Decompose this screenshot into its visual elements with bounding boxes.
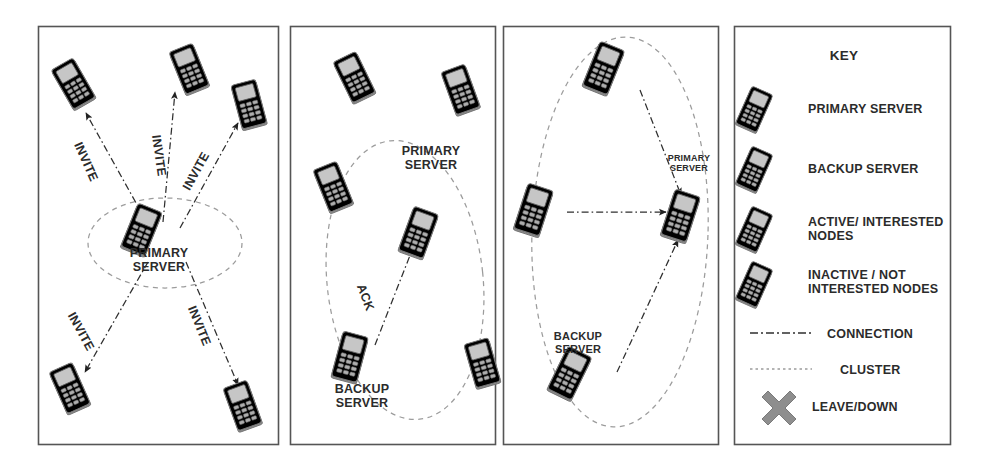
key-label-connection: CONNECTION [827,327,913,341]
cross-x-icon [762,391,796,425]
key-icons [734,86,812,425]
phone-active-icon [734,206,773,254]
key-label-cluster: CLUSTER [840,363,900,377]
panel-1-node-bottom-left [48,362,91,416]
panel-2-graphics [312,51,501,427]
panel-1-node-right [230,79,268,131]
panel-2-backup-label: BACKUP SERVER [316,382,408,411]
panel-1-node-top-center [168,43,210,96]
panel-3-node-top [581,41,625,97]
key-label-inactive-nodes: INACTIVE / NOT INTERESTED NODES [808,268,938,297]
phone-primary-icon [734,86,773,134]
panel-3-graphics [513,34,715,430]
panel-3-backup-label: BACKUP SERVER [540,330,616,355]
panel-3-primary-label: PRIMARY SERVER [653,153,725,174]
key-label-backup-server: BACKUP SERVER [808,162,919,176]
panel-2-backup-server [330,331,369,385]
panel-3-edge-top [640,90,681,195]
panel-3-node-left [513,183,555,238]
panel-2-primary-server [397,206,439,261]
panel-1-graphics [48,43,268,433]
panel-3-primary-server [660,189,702,244]
panel-2-node-top-left [332,51,376,105]
panel-1-node-top-left [50,57,96,111]
panel-3-edge-backup [617,240,678,372]
diagram-canvas: .ph-body { stroke:#7a7a7a; stroke-width:… [0,0,981,473]
phone-backup-icon [734,146,773,194]
panel-2-node-top-right [440,64,481,117]
key-title: KEY [784,48,904,64]
panel-2-node-mid-left [312,161,354,214]
panel-1-cluster-label: PRIMARY SERVER [104,246,214,275]
key-label-primary-server: PRIMARY SERVER [808,102,922,116]
phone-inactive-icon [734,261,773,309]
panel-2-cluster-label: PRIMARY SERVER [385,144,477,173]
key-label-leave-down: LEAVE/DOWN [812,400,898,414]
panel-1-node-bottom-right [222,380,263,433]
key-label-active-nodes: ACTIVE/ INTERESTED NODES [808,215,944,244]
